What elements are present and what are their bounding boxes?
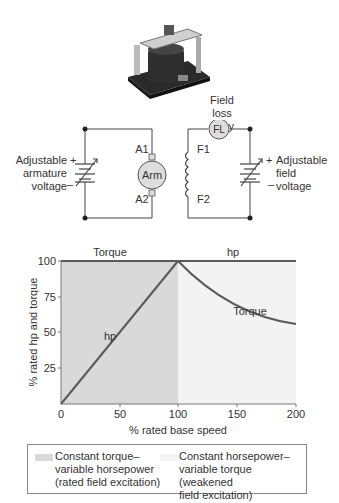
x-axis-label: % rated base speed xyxy=(129,424,227,436)
legend-label-constant-hp: Constant horsepower– variable torque (we… xyxy=(179,450,306,502)
svg-text:150: 150 xyxy=(228,408,246,420)
field-voltage-label: Adjustable field voltage xyxy=(276,154,327,193)
svg-text:50: 50 xyxy=(114,408,126,420)
svg-text:Arm: Arm xyxy=(142,169,162,181)
constant-hp-region xyxy=(178,261,296,404)
y-axis-label: % rated hp and torque xyxy=(27,278,39,387)
armature-icon: Arm xyxy=(138,154,166,196)
svg-text:FL: FL xyxy=(213,124,225,135)
svg-text:100: 100 xyxy=(38,255,56,267)
relay-photo xyxy=(118,15,218,100)
armature-voltage-source-icon xyxy=(75,159,97,186)
field-loss-relay-icon: FL xyxy=(209,120,229,139)
terminal-f2: F2 xyxy=(197,193,210,205)
top-label-hp: hp xyxy=(227,246,239,258)
armature-voltage-label: Adjustable armature voltage xyxy=(10,154,67,193)
terminal-f1: F1 xyxy=(197,143,210,155)
field-voltage-source-icon xyxy=(240,159,262,186)
legend-label-constant-torque: Constant torque– variable horsepower (ra… xyxy=(55,450,160,489)
chart-legend: Constant torque– variable horsepower (ra… xyxy=(27,444,307,494)
svg-text:25: 25 xyxy=(44,362,56,374)
svg-text:200: 200 xyxy=(287,408,305,420)
field-coil-icon xyxy=(186,152,189,197)
hp-series-label: hp xyxy=(104,330,116,342)
svg-text:0: 0 xyxy=(58,408,64,420)
svg-text:75: 75 xyxy=(44,291,56,303)
svg-text:100: 100 xyxy=(169,408,187,420)
torque-series-label: Torque xyxy=(233,305,267,317)
svg-text:+: + xyxy=(266,154,272,166)
svg-text:–: – xyxy=(268,178,275,190)
svg-text:–: – xyxy=(67,178,74,190)
legend-swatch-constant-hp xyxy=(160,454,178,461)
svg-text:+: + xyxy=(70,154,76,166)
top-label-torque: Torque xyxy=(93,246,127,258)
hp-torque-chart: 100 75 50 25 0 50 100 150 200 % rated ba… xyxy=(0,240,339,440)
terminal-a2: A2 xyxy=(135,193,148,205)
legend-swatch-constant-torque xyxy=(35,454,53,461)
svg-text:50: 50 xyxy=(44,326,56,338)
terminal-a1: A1 xyxy=(135,143,148,155)
